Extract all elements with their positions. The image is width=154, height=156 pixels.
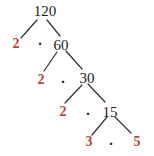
branch-60-to-30 [66, 51, 82, 69]
branch-lines [0, 0, 154, 156]
node-60: 60 [54, 38, 69, 53]
branch-15-to-3 [92, 117, 107, 135]
prime-factor-2-l3: 2 [60, 105, 67, 119]
multiply-dot-l1: · [37, 37, 42, 52]
multiply-dot-l2: · [60, 75, 65, 90]
branch-30-to-15 [88, 84, 105, 102]
prime-factor-2-l2: 2 [38, 73, 45, 87]
multiply-dot-l4: · [108, 137, 113, 152]
prime-factor-3: 3 [86, 135, 93, 149]
branch-120-to-2 [21, 20, 37, 38]
multiply-dot-l3: · [85, 107, 90, 122]
factor-tree-diagram: 120 2 · 60 2 · 30 2 · 15 3 · 5 [0, 0, 154, 156]
branch-120-to-60 [47, 20, 60, 36]
prime-factor-2-l1: 2 [13, 37, 20, 51]
prime-factor-5: 5 [134, 135, 141, 149]
branch-60-to-2 [44, 52, 57, 71]
branch-30-to-2 [65, 85, 82, 103]
node-30: 30 [80, 71, 95, 86]
node-120: 120 [34, 4, 57, 19]
node-15: 15 [103, 105, 118, 120]
